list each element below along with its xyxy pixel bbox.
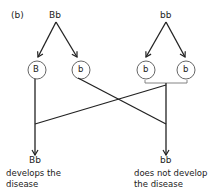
parent-left-genotype: Bb [49, 10, 61, 21]
parent-right-genotype: bb [160, 10, 171, 21]
caption-line: develops the [6, 168, 61, 179]
line-b-right-to-left [35, 85, 166, 124]
panel-label: (b) [11, 10, 24, 21]
arrow-parent-right-to-b1 [146, 22, 166, 57]
offspring-caption-bb: does not develop the disease [134, 168, 207, 190]
offspring-caption-Bb: develops the disease [6, 168, 61, 190]
gamete-label-b-right-2: b [183, 64, 188, 75]
arrow-parent-left-to-b [56, 22, 77, 57]
caption-line: the disease [134, 179, 207, 190]
gamete-label-b-left: b [78, 64, 83, 75]
gamete-bracket [145, 80, 187, 83]
arrow-parent-right-to-b2 [166, 22, 185, 57]
gamete-label-B: B [33, 64, 39, 75]
line-b-left-to-right [78, 78, 166, 124]
arrow-parent-left-to-B [38, 22, 56, 57]
offspring-genotype-bb: bb [160, 155, 171, 166]
offspring-genotype-Bb: Bb [29, 155, 41, 166]
caption-line: does not develop [134, 168, 207, 179]
caption-line: disease [6, 179, 61, 190]
gamete-label-b-right-1: b [143, 64, 148, 75]
